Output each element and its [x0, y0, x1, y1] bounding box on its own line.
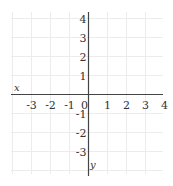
x-tick-labels: -3-2-101234 [26, 99, 168, 112]
x-tick-label: -3 [26, 99, 37, 112]
grid-lines [11, 12, 163, 174]
coordinate-plane: -3-2-101234 4321-1-2-3 x y [0, 0, 173, 186]
x-tick-label: -1 [64, 99, 75, 112]
x-tick-label: -2 [45, 99, 56, 112]
y-tick-label: 1 [80, 70, 87, 83]
x-tick-label: 3 [142, 99, 149, 112]
y-tick-label: -3 [76, 146, 87, 159]
x-axis-label: x [14, 82, 20, 93]
y-tick-labels: 4321-1-2-3 [76, 13, 87, 159]
y-tick-label: -2 [76, 127, 87, 140]
x-tick-label: 2 [123, 99, 130, 112]
y-tick-label: -1 [76, 108, 87, 121]
x-tick-label: 4 [161, 99, 168, 112]
x-tick-label: 1 [104, 99, 111, 112]
y-axis-label: y [89, 159, 96, 170]
y-tick-label: 2 [80, 51, 87, 64]
y-tick-label: 3 [80, 32, 87, 45]
y-tick-label: 4 [80, 13, 87, 26]
